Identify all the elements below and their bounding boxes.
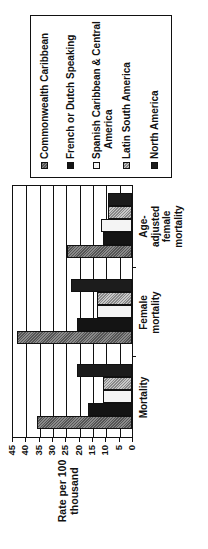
value-tick: [25, 438, 26, 442]
bar: [77, 364, 132, 377]
gridline: [66, 186, 67, 438]
value-tick: [132, 438, 133, 442]
value-tick: [119, 438, 120, 442]
bar: [97, 292, 132, 305]
bar: [97, 305, 132, 318]
value-tick-label: 25: [60, 445, 70, 467]
legend-swatch-icon: [67, 162, 74, 169]
bar: [103, 232, 132, 245]
legend-label: North America: [149, 90, 161, 159]
legend-swatch-icon: [41, 162, 48, 169]
gridline: [40, 186, 41, 438]
value-axis-line: [12, 437, 133, 438]
category-label: Femalemortality: [138, 271, 161, 355]
bar: [108, 206, 132, 219]
bar: [101, 219, 132, 232]
value-tick: [52, 438, 53, 442]
value-tick-label: 30: [47, 445, 57, 467]
category-tick: [132, 356, 136, 357]
legend-item: Latin South America: [121, 62, 133, 169]
value-tick: [92, 438, 93, 442]
legend-label: French or Dutch Speaking: [65, 35, 77, 159]
legend-item: Commonwealth Caribbean: [39, 33, 51, 169]
gridline: [93, 186, 94, 438]
bar: [17, 331, 132, 344]
bar: [77, 318, 132, 331]
legend-swatch-icon: [93, 162, 100, 169]
category-label: Age-adjustedfemalemortality: [138, 185, 184, 269]
value-tick-label: 20: [74, 445, 84, 467]
value-tick-label: 0: [127, 445, 137, 467]
value-tick-label: 35: [34, 445, 44, 467]
bar: [67, 245, 132, 258]
gridline: [53, 186, 54, 438]
legend-item: French or Dutch Speaking: [65, 35, 77, 169]
value-tick-label: 5: [114, 445, 124, 467]
value-tick-label: 15: [87, 445, 97, 467]
category-label: Mortality: [138, 356, 150, 440]
legend-item: North America: [149, 90, 161, 169]
bar: [103, 377, 132, 390]
legend-swatch-icon: [151, 162, 158, 169]
gridline: [80, 186, 81, 438]
legend-item: Spanish Caribbean & CentralAmerica: [91, 21, 114, 169]
value-tick: [65, 438, 66, 442]
bar: [71, 279, 132, 292]
value-tick: [79, 438, 80, 442]
bar: [37, 416, 132, 429]
value-tick: [105, 438, 106, 442]
bar: [103, 390, 132, 403]
value-tick-label: 10: [100, 445, 110, 467]
value-tick: [12, 438, 13, 442]
category-axis-line: [132, 185, 133, 438]
legend-label: Commonwealth Caribbean: [39, 33, 51, 159]
legend-swatch-icon: [123, 162, 130, 169]
value-tick: [39, 438, 40, 442]
value-tick-label: 45: [7, 445, 17, 467]
gridline: [26, 186, 27, 438]
chart-stage: Rate per 100 thousand 051015202530354045…: [0, 0, 208, 549]
legend-label: Latin South America: [121, 62, 133, 159]
legend-label: Spanish Caribbean & CentralAmerica: [91, 21, 114, 159]
value-tick-label: 40: [20, 445, 30, 467]
bar: [88, 403, 132, 416]
legend: Commonwealth CaribbeanFrench or Dutch Sp…: [30, 15, 172, 178]
category-tick: [132, 267, 136, 268]
bar: [108, 193, 132, 206]
